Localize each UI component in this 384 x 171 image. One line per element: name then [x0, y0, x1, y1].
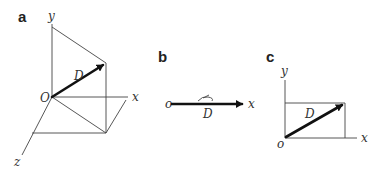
z-axis-label: z — [13, 155, 21, 169]
panel-b: b o D x — [158, 48, 255, 121]
projection-line — [52, 97, 106, 133]
x-axis-label: x — [361, 131, 368, 145]
vector-d-label: D — [202, 107, 213, 121]
vector-d-label: D — [304, 107, 315, 121]
x-axis-label: x — [248, 97, 255, 111]
origin-label: o — [277, 137, 284, 151]
projection-line — [106, 100, 126, 133]
panel-b-label: b — [158, 48, 167, 65]
panel-c: c y x D o — [266, 48, 368, 151]
y-axis-label: y — [280, 64, 288, 78]
panel-c-label: c — [266, 48, 274, 65]
projection-line — [52, 27, 106, 63]
z-axis — [22, 97, 52, 155]
origin-label: O — [40, 91, 50, 105]
scribble-annotation — [198, 95, 213, 101]
panel-a-label: a — [18, 8, 27, 25]
panel-a: a y x z D O — [13, 8, 139, 169]
vector-dimensions-diagram: a y x z D O b o D x c y x — [0, 0, 384, 171]
y-axis-label: y — [47, 9, 55, 23]
x-axis-label: x — [132, 90, 139, 104]
vector-d-label: D — [73, 69, 84, 83]
